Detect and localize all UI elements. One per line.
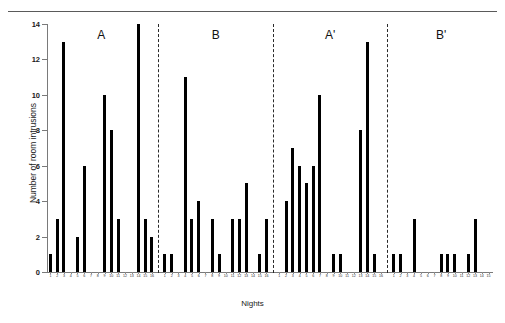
bar bbox=[453, 254, 456, 272]
x-axis-tick-label: 14 bbox=[365, 275, 369, 279]
x-axis-tick-label: 4 bbox=[70, 275, 72, 279]
bar bbox=[76, 237, 79, 272]
top-divider-rule bbox=[8, 11, 497, 12]
phase-divider bbox=[387, 24, 388, 273]
x-axis-tick-label: 13 bbox=[130, 275, 134, 279]
x-axis-tick-label: 11 bbox=[231, 275, 235, 279]
x-axis-tick-label: 10 bbox=[109, 275, 113, 279]
x-axis-tick-label: 14 bbox=[136, 275, 140, 279]
x-axis-tick-label: 8 bbox=[326, 275, 328, 279]
bar bbox=[312, 166, 315, 272]
x-axis-tick-label: 12 bbox=[466, 275, 470, 279]
phase-label-1: A bbox=[97, 28, 105, 42]
x-axis-labels: 1234567891011121314151612345678910111213… bbox=[47, 275, 492, 287]
x-axis-tick-label: 1 bbox=[49, 275, 51, 279]
bar bbox=[117, 219, 120, 272]
x-axis-tick-label: 1 bbox=[278, 275, 280, 279]
x-axis-tick-label: 2 bbox=[56, 275, 58, 279]
bar bbox=[359, 130, 362, 272]
phase-label-3: A' bbox=[325, 28, 335, 42]
bar bbox=[150, 237, 153, 272]
x-axis-tick-label: 12 bbox=[352, 275, 356, 279]
x-axis-title: Nights bbox=[0, 299, 505, 308]
bar bbox=[366, 42, 369, 272]
x-axis-tick-label: 9 bbox=[104, 275, 106, 279]
x-axis-tick-label: 14 bbox=[480, 275, 484, 279]
x-axis-tick-label: 8 bbox=[97, 275, 99, 279]
bar bbox=[265, 219, 268, 272]
x-axis-tick-label: 5 bbox=[76, 275, 78, 279]
bar bbox=[339, 254, 342, 272]
x-axis-tick-label: 5 bbox=[191, 275, 193, 279]
bar bbox=[163, 254, 166, 272]
bar bbox=[245, 183, 248, 272]
bar bbox=[231, 219, 234, 272]
bar bbox=[392, 254, 395, 272]
plot-area bbox=[47, 24, 492, 272]
phase-label-4: B' bbox=[436, 28, 446, 42]
bar bbox=[197, 201, 200, 272]
y-axis-tick-label: 0 bbox=[14, 269, 40, 277]
bar bbox=[318, 95, 321, 272]
x-axis-tick-label: 6 bbox=[312, 275, 314, 279]
x-axis-tick-label: 3 bbox=[63, 275, 65, 279]
phase-label-2: B bbox=[212, 28, 220, 42]
x-axis-tick-label: 4 bbox=[299, 275, 301, 279]
x-axis-tick-label: 4 bbox=[413, 275, 415, 279]
x-axis-tick-label: 2 bbox=[285, 275, 287, 279]
bar bbox=[373, 254, 376, 272]
x-axis-tick-label: 9 bbox=[218, 275, 220, 279]
x-axis-tick-label: 7 bbox=[204, 275, 206, 279]
x-axis-tick-label: 10 bbox=[338, 275, 342, 279]
x-axis-tick-label: 10 bbox=[453, 275, 457, 279]
y-axis-title: Number of room intrusions bbox=[28, 63, 38, 243]
x-axis-tick-label: 12 bbox=[123, 275, 127, 279]
phase-divider bbox=[158, 24, 159, 273]
bar bbox=[467, 254, 470, 272]
x-axis-tick-label: 11 bbox=[460, 275, 464, 279]
x-axis-tick-label: 9 bbox=[333, 275, 335, 279]
x-axis-tick-label: 2 bbox=[400, 275, 402, 279]
bar bbox=[332, 254, 335, 272]
x-axis-tick-label: 16 bbox=[264, 275, 268, 279]
y-axis-tick-label: 14 bbox=[14, 21, 40, 29]
x-axis-tick-label: 15 bbox=[372, 275, 376, 279]
phase-divider bbox=[273, 24, 274, 273]
bar bbox=[170, 254, 173, 272]
x-axis-tick-label: 7 bbox=[319, 275, 321, 279]
x-axis-tick-label: 3 bbox=[406, 275, 408, 279]
x-axis-tick-label: 5 bbox=[305, 275, 307, 279]
bar bbox=[211, 219, 214, 272]
x-axis-tick-label: 4 bbox=[184, 275, 186, 279]
bar bbox=[413, 219, 416, 272]
bar bbox=[305, 183, 308, 272]
x-axis-tick-label: 1 bbox=[393, 275, 395, 279]
x-axis-line bbox=[47, 272, 493, 273]
bar bbox=[62, 42, 65, 272]
bar bbox=[298, 166, 301, 272]
x-axis-tick-label: 15 bbox=[487, 275, 491, 279]
x-axis-tick-label: 16 bbox=[150, 275, 154, 279]
bar bbox=[56, 219, 59, 272]
bar bbox=[474, 219, 477, 272]
x-axis-tick-label: 15 bbox=[143, 275, 147, 279]
bar bbox=[258, 254, 261, 272]
x-axis-tick-label: 13 bbox=[473, 275, 477, 279]
x-axis-tick-label: 14 bbox=[251, 275, 255, 279]
x-axis-tick-label: 9 bbox=[447, 275, 449, 279]
x-axis-tick-label: 11 bbox=[116, 275, 120, 279]
x-axis-tick-label: 13 bbox=[244, 275, 248, 279]
bar bbox=[218, 254, 221, 272]
bar bbox=[190, 219, 193, 272]
x-axis-tick-label: 6 bbox=[198, 275, 200, 279]
bar bbox=[103, 95, 106, 272]
bar bbox=[399, 254, 402, 272]
bar bbox=[291, 148, 294, 272]
bar bbox=[446, 254, 449, 272]
x-axis-tick-label: 5 bbox=[420, 275, 422, 279]
x-axis-tick-label: 15 bbox=[258, 275, 262, 279]
bar bbox=[144, 219, 147, 272]
x-axis-tick-label: 16 bbox=[379, 275, 383, 279]
bar bbox=[137, 24, 140, 272]
x-axis-tick-label: 13 bbox=[359, 275, 363, 279]
